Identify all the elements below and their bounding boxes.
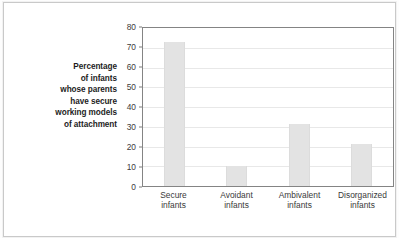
y-tick-label: 80 [127,22,136,32]
x-axis-label-line: Secure [142,190,205,200]
bar [289,124,310,186]
y-axis-label: Percentage of infants whose parents have… [25,61,117,131]
x-axis-label-line: infants [331,200,394,210]
x-axis-label: Secureinfants [142,190,205,211]
bar-slot [143,28,206,186]
y-axis-ticks: 01020304050607080 [119,27,139,187]
y-axis-label-line-1: Percentage [25,61,117,73]
bar [351,144,372,186]
x-axis-label: Ambivalentinfants [268,190,331,211]
y-tick-label: 70 [127,42,136,52]
figure-outer-frame: Percentage of infants whose parents have… [3,2,396,233]
bar-slot [206,28,269,186]
x-axis-label-line: infants [205,200,268,210]
x-axis-labels: SecureinfantsAvoidantinfantsAmbivalentin… [142,190,394,211]
y-tick-label: 60 [127,62,136,72]
y-tick-label: 40 [127,102,136,112]
y-tick-label: 30 [127,122,136,132]
figure-inner-frame: Percentage of infants whose parents have… [11,9,388,229]
x-axis-label: Disorganizedinfants [331,190,394,211]
plot-area [142,27,394,187]
y-axis-label-line-2: of infants [25,73,117,85]
bar-slot [331,28,394,186]
y-axis-label-line-6: of attachment [25,119,117,131]
y-tick-label: 10 [127,162,136,172]
figure-container: Percentage of infants whose parents have… [0,0,399,233]
bar-series [143,28,393,186]
x-axis-label-line: Ambivalent [268,190,331,200]
y-axis-label-line-4: have secure [25,96,117,108]
bar [226,166,247,186]
y-tick-label: 20 [127,142,136,152]
plot-wrapper: 01020304050607080 [119,27,394,187]
x-axis-label-line: infants [142,200,205,210]
y-tick-label: 50 [127,82,136,92]
x-axis-label: Avoidantinfants [205,190,268,211]
x-axis-label-line: Disorganized [331,190,394,200]
y-tick-label: 0 [131,182,136,192]
y-axis-label-line-3: whose parents [25,84,117,96]
bar [164,42,185,186]
x-axis-label-line: infants [268,200,331,210]
bar-slot [268,28,331,186]
x-axis-label-line: Avoidant [205,190,268,200]
y-axis-label-line-5: working models [25,107,117,119]
